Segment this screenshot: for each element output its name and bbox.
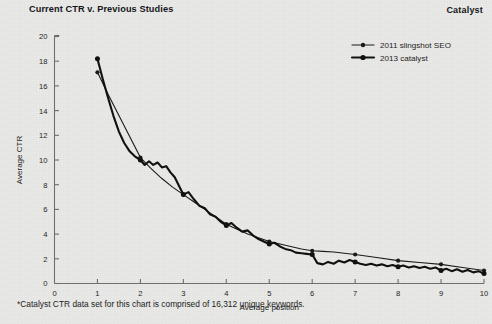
x-tick-label: 7 <box>353 289 357 298</box>
legend-label-1: 2011 slingshot SEO <box>380 41 451 50</box>
x-tick-label: 0 <box>52 289 56 298</box>
data-point-marker <box>181 192 186 197</box>
legend-layer: 2011 slingshot SEO2013 catalyst <box>352 41 451 63</box>
y-axis-title: Average CTR <box>15 136 24 185</box>
y-tick-label: 10 <box>39 156 47 165</box>
y-tick-label: 6 <box>43 205 47 214</box>
series-line-1 <box>97 72 484 270</box>
y-tick-label: 0 <box>43 279 47 288</box>
y-tick-label: 14 <box>39 107 47 116</box>
data-point-marker <box>224 223 229 228</box>
x-tick-label: 3 <box>181 289 185 298</box>
chart-canvas: 02468101214161820012345678910Average CTR… <box>0 0 492 324</box>
data-point-marker <box>267 241 272 246</box>
x-tick-label: 9 <box>439 289 443 298</box>
y-tick-label: 12 <box>39 131 47 140</box>
series-layer <box>95 56 487 276</box>
data-point-marker <box>353 259 358 264</box>
data-point-marker <box>396 264 401 269</box>
data-point-marker <box>439 262 443 266</box>
x-tick-label: 1 <box>95 289 99 298</box>
data-point-marker <box>482 271 487 276</box>
y-tick-label: 18 <box>39 57 47 66</box>
data-point-marker <box>138 158 143 163</box>
x-tick-label: 8 <box>396 289 400 298</box>
y-tick-label: 4 <box>43 230 47 239</box>
data-point-marker <box>95 70 99 74</box>
data-point-marker <box>353 252 357 256</box>
series-line-2 <box>97 59 484 274</box>
legend-swatch-marker-1 <box>361 43 365 47</box>
y-tick-label: 20 <box>39 32 47 41</box>
data-point-marker <box>95 56 100 61</box>
x-tick-label: 10 <box>480 289 488 298</box>
x-tick-label: 5 <box>267 289 271 298</box>
x-tick-label: 4 <box>224 289 228 298</box>
data-point-marker <box>396 259 400 263</box>
y-tick-label: 2 <box>43 255 47 264</box>
x-tick-label: 2 <box>138 289 142 298</box>
y-tick-label: 16 <box>39 82 47 91</box>
data-point-marker <box>310 252 315 257</box>
legend-swatch-marker-2 <box>360 55 365 60</box>
legend-label-2: 2013 catalyst <box>380 54 428 63</box>
x-tick-label: 6 <box>310 289 314 298</box>
axes-layer: 02468101214161820012345678910Average CTR… <box>15 32 488 311</box>
y-tick-label: 8 <box>43 181 47 190</box>
footnote-text: *Catalyst CTR data set for this chart is… <box>17 299 305 309</box>
data-point-marker <box>439 268 444 273</box>
